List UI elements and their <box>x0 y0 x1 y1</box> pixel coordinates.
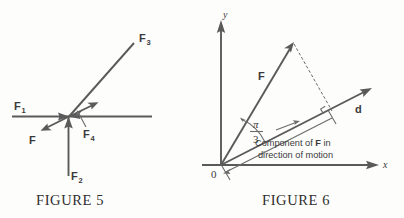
f-resultant-arrowhead <box>41 123 52 130</box>
f4-vector <box>69 102 99 116</box>
figure-5-diagram: F 1 F F 2 F 3 F 4 <box>0 0 200 190</box>
f3-vector <box>69 43 134 119</box>
label-f3: F <box>139 32 146 44</box>
label-f3-subscript: 3 <box>147 38 151 47</box>
figure-6-diagram: y x 0 F d π 3 <box>200 0 404 190</box>
label-f1: F <box>14 100 21 112</box>
figure-panel: F 1 F F 2 F 3 F 4 y x 0 <box>0 0 404 218</box>
f2-vector <box>64 117 73 177</box>
label-f1-subscript: 1 <box>22 106 26 115</box>
label-x-axis: x <box>382 159 388 170</box>
annotation-line-1: Component of F in <box>255 138 331 148</box>
label-force-f: F <box>258 70 265 82</box>
perpendicular-projection-line <box>294 44 332 111</box>
annotation-line-1-part-2: in <box>321 138 331 148</box>
f4-leader-line <box>76 110 86 127</box>
y-axis <box>217 20 225 165</box>
label-y-axis: y <box>222 9 228 20</box>
component-bracket-tick-end <box>328 110 336 124</box>
caption-figure-6: FIGURE 6 <box>262 192 330 209</box>
f-resultant-vector <box>41 117 70 131</box>
label-displacement-d: d <box>355 103 362 115</box>
label-f2-subscript: 2 <box>79 176 83 185</box>
label-f4: F <box>83 128 90 140</box>
label-f2: F <box>71 170 78 182</box>
annotation-line-1-part-1: Component of <box>255 138 315 148</box>
label-f4-subscript: 4 <box>91 134 96 143</box>
annotation-leader <box>276 120 300 130</box>
label-origin: 0 <box>211 168 217 180</box>
caption-figure-5: FIGURE 5 <box>36 192 104 209</box>
label-f: F <box>29 134 36 146</box>
annotation-line-2: direction of motion <box>258 150 333 160</box>
angle-numerator: π <box>253 118 259 130</box>
